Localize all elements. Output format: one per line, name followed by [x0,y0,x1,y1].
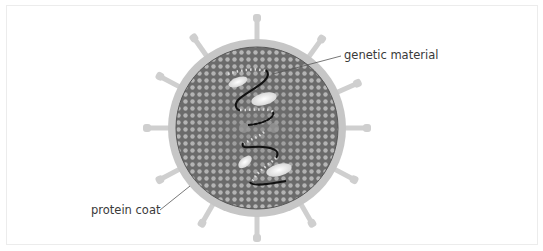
virus-illustration [0,0,543,251]
label-genetic-material: genetic material [344,48,438,62]
label-protein-coat: protein coat [91,203,160,217]
protein-coat-leader [160,186,190,210]
